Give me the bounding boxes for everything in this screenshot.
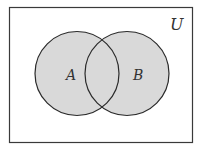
set-b-label: B [132,67,143,83]
venn-diagram: A B U [0,0,202,150]
set-a-label: A [64,67,76,83]
universe-label: U [170,15,184,34]
